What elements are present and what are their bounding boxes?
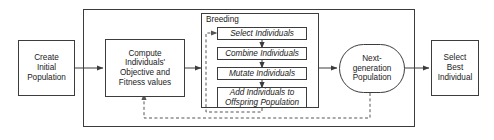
step-mutate-individuals[interactable]: Mutate Individuals xyxy=(217,67,307,80)
node-line: Create xyxy=(27,53,66,63)
node-line: Best xyxy=(438,63,473,73)
node-select-best-individual[interactable]: Select Best Individual xyxy=(431,40,479,96)
step-select-individuals[interactable]: Select Individuals xyxy=(217,27,307,40)
node-line: Initial xyxy=(27,63,66,73)
node-line: Individual xyxy=(438,73,473,83)
step-line: Select Individuals xyxy=(230,29,294,39)
node-compute-fitness[interactable]: Compute Individuals' Objective and Fitne… xyxy=(105,39,185,97)
node-create-initial-population[interactable]: Create Initial Population xyxy=(18,40,75,96)
node-line: Next- xyxy=(353,54,392,64)
node-line: Objective and xyxy=(119,68,171,78)
step-line: Combine Individuals xyxy=(225,49,299,59)
diagram-canvas: Create Initial Population Compute Indivi… xyxy=(0,0,494,140)
step-combine-individuals[interactable]: Combine Individuals xyxy=(217,47,307,60)
step-add-individuals-to-offspring-population[interactable]: Add Individuals to Offspring Population xyxy=(217,87,307,108)
node-line: Fitness values xyxy=(119,78,171,88)
group-breeding-title: Breeding xyxy=(206,15,239,24)
node-line: Compute xyxy=(119,49,171,59)
node-line: generation xyxy=(353,64,392,74)
step-line: Add Individuals to xyxy=(225,88,299,98)
step-line: Mutate Individuals xyxy=(229,69,295,79)
node-line: Population xyxy=(353,73,392,83)
step-line: Offspring Population xyxy=(225,98,299,108)
node-line: Individuals' xyxy=(119,58,171,68)
node-line: Population xyxy=(27,73,66,83)
node-line: Select xyxy=(438,53,473,63)
node-next-generation-population[interactable]: Next- generation Population xyxy=(339,44,405,93)
